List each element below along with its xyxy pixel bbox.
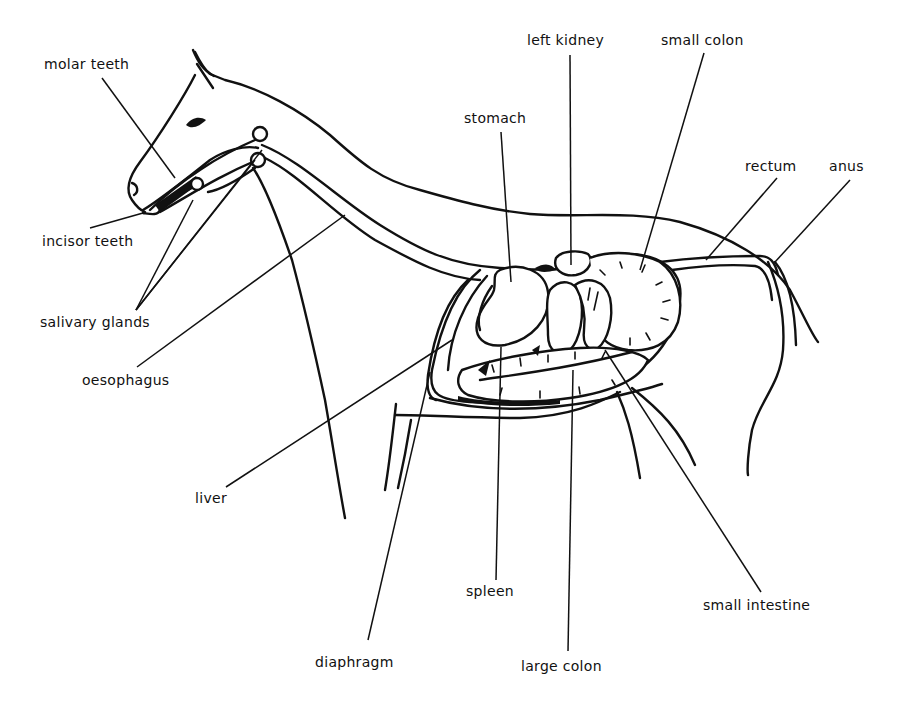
leader-lines: [90, 53, 850, 651]
label-large-colon: large colon: [521, 658, 602, 674]
label-spleen: spleen: [466, 583, 514, 599]
leader-liver: [226, 340, 452, 487]
salivary-gland-3: [191, 178, 203, 190]
label-stomach: stomach: [464, 110, 526, 126]
label-small-intestine: small intestine: [703, 597, 810, 613]
leader-salivary-glands: [136, 200, 193, 310]
digestive-tract: [150, 127, 570, 280]
label-left-kidney: left kidney: [527, 32, 604, 48]
label-molar-teeth: molar teeth: [44, 56, 129, 72]
organ-mass: [427, 251, 778, 408]
leader-small-intestine: [605, 350, 761, 592]
leader-stomach: [501, 132, 511, 282]
leader-diaphragm: [368, 372, 430, 640]
leader-salivary-glands: [136, 150, 262, 310]
label-oesophagus: oesophagus: [82, 372, 169, 388]
label-salivary-glands: salivary glands: [40, 314, 150, 330]
label-liver: liver: [195, 490, 227, 506]
label-anus: anus: [829, 158, 864, 174]
label-incisor-teeth: incisor teeth: [42, 233, 133, 249]
leader-left-kidney: [570, 55, 571, 265]
leader-small-colon: [640, 53, 704, 270]
leader-incisor-teeth: [90, 213, 143, 228]
leader-anus: [775, 180, 850, 262]
salivary-gland-1: [253, 127, 267, 141]
label-diaphragm: diaphragm: [315, 654, 394, 670]
label-small-colon: small colon: [661, 32, 744, 48]
label-rectum: rectum: [745, 158, 797, 174]
